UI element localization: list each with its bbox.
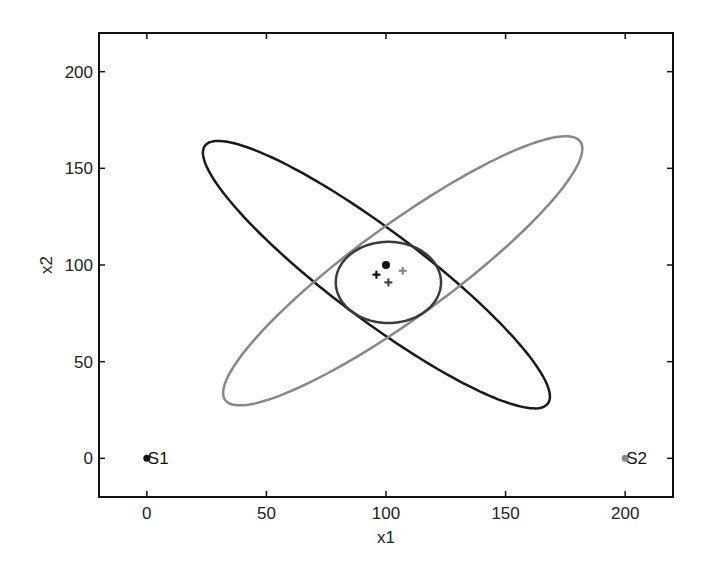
estimate-fused-marker (384, 278, 392, 286)
x-axis-label: x1 (377, 528, 395, 547)
y-tick-label: 150 (65, 159, 93, 178)
y-tick-label: 200 (65, 63, 93, 82)
x-tick-label: 150 (491, 504, 519, 523)
x-tick-label: 200 (611, 504, 639, 523)
y-tick-label: 100 (65, 256, 93, 275)
estimate-s1-marker (372, 271, 380, 279)
chart: S1S2 050100150200050100150200 x1 x2 (0, 0, 706, 569)
x-tick-label: 0 (142, 504, 151, 523)
y-tick-label: 0 (84, 449, 93, 468)
source-s1-label: S1 (148, 449, 169, 468)
estimate-s2-marker (399, 267, 407, 275)
y-axis-label: x2 (37, 256, 56, 274)
x-tick-label: 50 (257, 504, 276, 523)
source-s2-label: S2 (626, 449, 647, 468)
y-tick-label: 50 (74, 353, 93, 372)
x-tick-label: 100 (372, 504, 400, 523)
plot-area: S1S2 (143, 136, 647, 468)
true-position-marker (382, 261, 390, 269)
